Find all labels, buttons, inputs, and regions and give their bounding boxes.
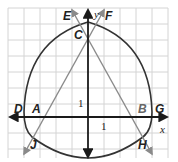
x-unit-label: 1 <box>101 120 107 132</box>
point-label-D: D <box>14 102 23 116</box>
point-label-B: B <box>138 102 147 116</box>
point-label-A: A <box>31 102 41 116</box>
point-label-G: G <box>155 102 164 116</box>
point-label-F: F <box>105 9 113 23</box>
point-label-C: C <box>74 28 83 42</box>
y-unit-label: 1 <box>78 97 84 109</box>
x-axis-label: x <box>159 123 165 135</box>
diagram-canvas: y x 1 1 E F C D A B G J H <box>0 0 178 162</box>
point-label-J: J <box>30 138 37 152</box>
point-label-E: E <box>63 9 72 23</box>
y-axis-label: y <box>93 8 99 20</box>
point-label-H: H <box>138 138 147 152</box>
